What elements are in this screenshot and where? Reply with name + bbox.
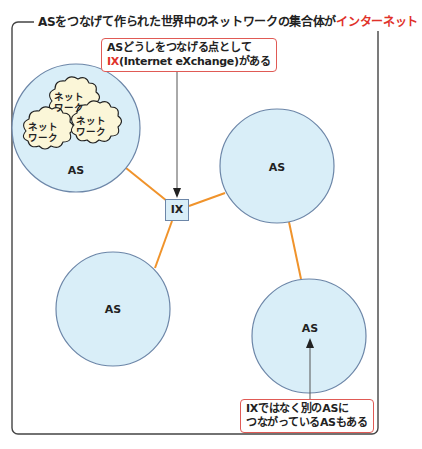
as-top-left-label: AS [68, 164, 84, 177]
title-text: ASをつなげて作られた世界中のネットワークの集合体が [38, 15, 336, 29]
link-ix-as-top-left [126, 168, 167, 201]
network-label: ネット ワーク [54, 91, 84, 113]
link-ix-as-bottom-left [155, 221, 172, 268]
as-bottom-left-label: AS [105, 303, 121, 316]
network-label-line1: ネット [28, 121, 58, 132]
callout-ix-rest: (Internet eXchange)がある [119, 55, 271, 68]
callout-as: IXではなく別のASに つながっているASもある [240, 399, 374, 433]
link-ix-as-right [189, 193, 225, 206]
callout-as-line1: IXではなく別のASに [246, 402, 368, 416]
callout-ix-highlight: IX [107, 55, 119, 68]
network-label-line2: ワーク [76, 126, 106, 137]
network-label-line2: ワーク [28, 132, 58, 143]
as-bottom-right-circle [252, 279, 366, 393]
callout-ix-line2: IX(Internet eXchange)がある [107, 55, 271, 69]
ix-node: IX [165, 199, 189, 221]
link-as-right-as-bottom-right [289, 222, 301, 279]
callout-as-line2: つながっているASもある [246, 416, 368, 430]
as-right-label: AS [269, 161, 285, 174]
network-label: ネット ワーク [76, 115, 106, 137]
as-bottom-right-label: AS [302, 322, 318, 335]
arrow-head-icon [173, 188, 181, 198]
network-label: ネット ワーク [28, 121, 58, 143]
title-highlight: インターネット [336, 15, 418, 29]
callout-ix: ASどうしをつなげる点として IX(Internet eXchange)がある [101, 38, 277, 72]
network-label-line2: ワーク [54, 102, 84, 113]
network-label-line1: ネット [76, 115, 106, 126]
callout-ix-line1: ASどうしをつなげる点として [107, 41, 271, 55]
diagram-title: ASをつなげて作られた世界中のネットワークの集合体がインターネット [34, 13, 422, 31]
network-label-line1: ネット [54, 91, 84, 102]
